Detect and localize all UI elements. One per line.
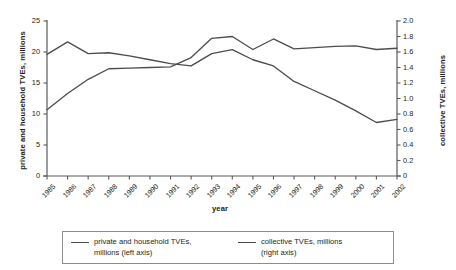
y-axis-right-tick-label: 0.4: [403, 140, 427, 149]
y-axis-right-tick-label: 1.0: [403, 94, 427, 103]
legend-line-private: [71, 242, 89, 243]
y-axis-right-tick-label: 1.4: [403, 63, 427, 72]
legend-item-private: private and household TVEs,millions (lef…: [71, 237, 191, 258]
y-axis-right-tick-label: 1.6: [403, 47, 427, 56]
y-axis-left-tick-label: 0: [18, 171, 40, 180]
y-axis-left-tick-label: 15: [18, 78, 40, 87]
y-axis-right-tick-label: 0: [403, 171, 427, 180]
legend-label-private-line2: millions (left axis): [94, 248, 152, 257]
y-axis-left-tick-label: 25: [18, 16, 40, 25]
y-axis-right-tick-label: 1.8: [403, 32, 427, 41]
y-axis-right-tick-label: 0.2: [403, 156, 427, 165]
legend-line-collective: [238, 242, 256, 243]
legend-label-collective-line1: collective TVEs, millions: [261, 237, 342, 246]
y-axis-right-tick-label: 0.6: [403, 125, 427, 134]
legend-label-collective: collective TVEs, millions(right axis): [261, 237, 342, 258]
y-axis-right-tick-label: 1.2: [403, 78, 427, 87]
chart-container: private and household TVEs, millions col…: [0, 0, 456, 270]
legend: private and household TVEs,millions (lef…: [62, 231, 394, 264]
y-axis-left-tick-label: 10: [18, 109, 40, 118]
y-axis-right-tick-label: 0.8: [403, 109, 427, 118]
plot-area: [0, 0, 456, 270]
axis-ticks: [44, 21, 401, 180]
y-axis-left-tick-label: 20: [18, 47, 40, 56]
axis-lines: [43, 20, 401, 176]
legend-label-collective-line2: (right axis): [261, 248, 296, 257]
y-axis-right-tick-label: 2.0: [403, 16, 427, 25]
data-series: [47, 37, 397, 123]
legend-label-private: private and household TVEs,millions (lef…: [94, 237, 191, 258]
legend-label-private-line1: private and household TVEs,: [94, 237, 191, 246]
y-axis-left-tick-label: 5: [18, 140, 40, 149]
legend-item-collective: collective TVEs, millions(right axis): [238, 237, 342, 258]
